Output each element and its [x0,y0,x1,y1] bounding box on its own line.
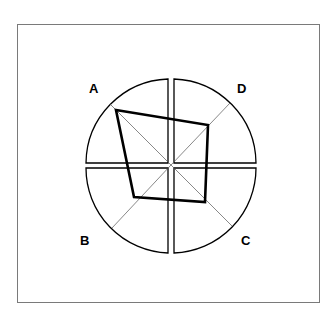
axis-d [171,103,230,165]
label-a: A [89,81,98,96]
radar-diagram [0,0,327,317]
label-c: C [241,233,250,248]
label-d: D [237,81,246,96]
axis-c [171,165,232,226]
label-b: B [80,233,89,248]
quadrant-b [86,168,168,253]
